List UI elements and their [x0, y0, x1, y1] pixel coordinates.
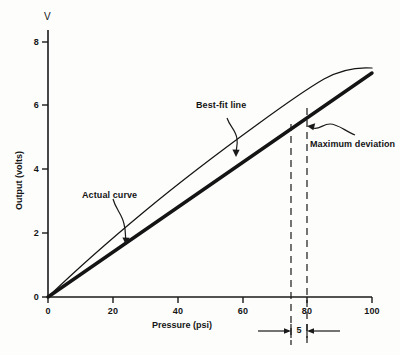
x-tick-label-20: 20 — [108, 306, 118, 316]
annotation-maximum-deviation: Maximum deviation — [310, 139, 395, 149]
leader-actual-curve-path — [113, 199, 126, 241]
y-tick-label-0: 0 — [30, 292, 39, 302]
x-tick-label-40: 40 — [173, 306, 183, 316]
dim-arrow-left-head — [284, 328, 291, 334]
leader-best-fit-head — [232, 150, 239, 157]
y-axis-title: Output (volts) — [14, 151, 24, 210]
x-tick-label-100: 100 — [364, 306, 380, 316]
leader-best-fit-line — [227, 118, 240, 157]
y-axis-ticks — [42, 42, 48, 297]
deviation-dimension-label: 5 — [296, 325, 301, 335]
x-axis-title: Pressure (psi) — [152, 320, 212, 330]
y-tick-label-4: 4 — [30, 164, 39, 174]
x-axis-ticks — [48, 297, 372, 303]
leader-actual-curve — [113, 199, 130, 245]
y-tick-label-2: 2 — [30, 228, 39, 238]
axis-lines — [48, 30, 372, 297]
x-tick-label-80: 80 — [302, 306, 312, 316]
leader-max-deviation-head — [307, 123, 315, 130]
annotation-actual-curve: Actual curve — [82, 190, 137, 200]
leader-max-deviation-path — [313, 124, 355, 135]
y-tick-label-6: 6 — [30, 100, 39, 110]
dim-arrow-right-head — [307, 328, 314, 334]
y-tick-label-8: 8 — [30, 37, 39, 47]
sensor-linearity-chart: V 0 2 4 6 8 0 20 40 60 80 100 Pressure (… — [0, 0, 400, 355]
leader-best-fit-path — [227, 118, 237, 153]
y-axis-unit-symbol: V — [44, 11, 51, 22]
leader-maximum-deviation — [307, 123, 355, 135]
annotation-best-fit-line: Best-fit line — [196, 100, 246, 110]
x-tick-label-60: 60 — [238, 306, 248, 316]
chart-canvas — [0, 0, 400, 355]
x-tick-label-0: 0 — [45, 306, 50, 316]
